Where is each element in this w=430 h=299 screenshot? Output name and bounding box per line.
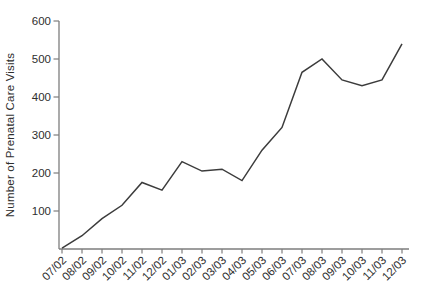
y-tick-label: 200 [32, 167, 51, 179]
plot-area: 10020030040050060007/0208/0209/0210/0211… [32, 15, 409, 283]
y-tick-label: 300 [32, 129, 51, 141]
y-tick-label: 400 [32, 91, 51, 103]
y-tick-label: 500 [32, 53, 51, 65]
series-line [62, 44, 402, 248]
prenatal-visits-line-chart: 10020030040050060007/0208/0209/0210/0211… [0, 0, 430, 299]
y-tick-label: 600 [32, 15, 51, 27]
chart-canvas: 10020030040050060007/0208/0209/0210/0211… [0, 0, 430, 299]
y-tick-label: 100 [32, 205, 51, 217]
y-axis-title: Number of Prenatal Care Visits [4, 53, 16, 217]
